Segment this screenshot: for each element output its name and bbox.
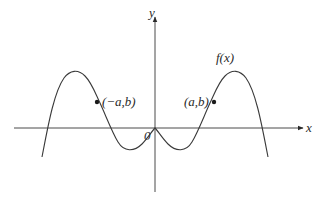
x-axis-label: x bbox=[305, 120, 312, 135]
function-label: f(x) bbox=[216, 50, 234, 65]
point-a-b-label: (a,b) bbox=[184, 94, 209, 109]
point-neg-a-b-label: (−a,b) bbox=[102, 94, 136, 109]
y-axis-label: y bbox=[147, 5, 155, 20]
point-a-b bbox=[212, 100, 216, 104]
point-neg-a-b bbox=[95, 100, 99, 104]
function-graph: x y 0 (−a,b) (a,b) f(x) bbox=[0, 0, 324, 203]
